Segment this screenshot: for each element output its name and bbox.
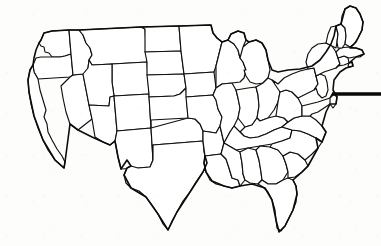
state-co: Colorado: [114, 94, 151, 131]
state-nm: New Mexico: [115, 128, 153, 169]
state-mt: Montana: [79, 27, 147, 65]
state-nd: North Dakota: [141, 26, 181, 52]
us-outline-map-figure: WashingtonOregonCaliforniaNevadaIdahoMon…: [0, 0, 381, 246]
state-wy: Wyoming: [112, 62, 149, 96]
state-or: Oregon: [33, 54, 73, 79]
state-ia: Iowa: [184, 72, 216, 97]
state-sd: South Dakota: [145, 51, 184, 75]
map-canvas: WashingtonOregonCaliforniaNevadaIdahoMon…: [0, 0, 381, 246]
